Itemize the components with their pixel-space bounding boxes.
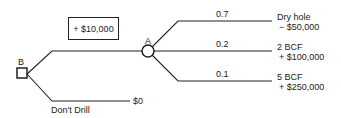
drill-cost-text: + $10,000: [73, 24, 113, 34]
drill-branch: [27, 51, 142, 74]
outcome-payoff-5bcf: + $250,000: [279, 82, 324, 92]
probability-5bcf: 0.1: [216, 69, 229, 79]
branch-5bcf: [152, 55, 272, 81]
outcome-name-5bcf: 5 BCF: [277, 72, 303, 82]
outcome-payoff-2bcf: + $100,000: [279, 52, 324, 62]
outcome-payoff-dry-hole: − $50,000: [279, 22, 319, 32]
dont-drill-payoff: $0: [133, 96, 143, 106]
decision-node-label: B: [18, 57, 24, 67]
dont-drill-label: Don't Drill: [51, 105, 90, 115]
outcome-name-2bcf: 2 BCF: [277, 42, 303, 52]
outcome-name-dry-hole: Dry hole: [277, 12, 311, 22]
probability-dry-hole: 0.7: [216, 9, 229, 19]
dont-drill-branch: [27, 74, 130, 101]
chance-node-label: A: [145, 36, 151, 46]
probability-2bcf: 0.2: [216, 39, 229, 49]
drill-cost-box: + $10,000: [68, 17, 119, 40]
decision-node-square: [17, 68, 27, 78]
branch-dry-hole: [152, 21, 272, 47]
